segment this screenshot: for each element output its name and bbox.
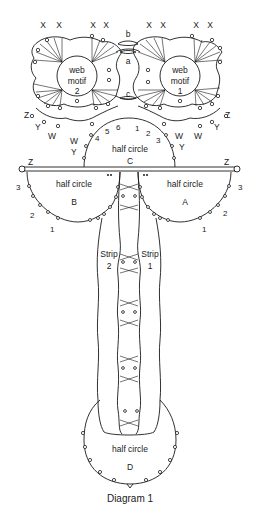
lace-pattern-diagram: X X X X X X X X b a c web motif 2 web mo…	[0, 0, 259, 515]
hc-c-num: 3	[156, 136, 161, 145]
w-inner-label-left: W	[70, 136, 78, 146]
hc-c-num: 2	[146, 129, 151, 138]
hc-a-num: 1	[202, 225, 207, 234]
hc-a-num: 3	[238, 183, 243, 192]
strip-1-number: 1	[148, 261, 153, 271]
join-b-label: b	[126, 29, 131, 39]
hc-b-letter: B	[71, 197, 77, 207]
y-label-left: Y	[35, 122, 41, 132]
half-circle-a: half circle A 3 2 1	[138, 172, 243, 234]
z-bar-right: Z	[224, 157, 229, 167]
x-label: X	[193, 20, 199, 30]
hc-c-num: 4	[95, 134, 100, 143]
hc-b-title: half circle	[56, 179, 92, 189]
w-label-left: W	[48, 131, 56, 141]
hc-c-num: 6	[116, 123, 121, 132]
half-circle-b: half circle B 3 2 1	[16, 172, 120, 234]
x-label: X	[160, 20, 166, 30]
hc-d-letter: D	[127, 462, 133, 472]
hc-b-num: 3	[16, 183, 21, 192]
x-label: X	[146, 20, 152, 30]
x-label: X	[103, 20, 109, 30]
w-label-right: W	[194, 131, 202, 141]
join-a-label: a	[126, 56, 131, 66]
hc-a-num: 2	[223, 209, 228, 218]
strip-2-number: 2	[107, 261, 112, 271]
hc-b-num: 1	[50, 225, 55, 234]
w-inner-label-right: W	[175, 131, 183, 141]
join-c-label: c	[126, 89, 131, 99]
y-label-right: Y	[214, 122, 220, 132]
half-circle-d: half circle D	[81, 400, 178, 488]
strip-2-title: Strip	[100, 249, 118, 259]
diagram-caption: Diagram 1	[107, 493, 154, 504]
z-label-left: Z	[24, 110, 29, 120]
x-label: X	[56, 20, 62, 30]
x-label: X	[207, 20, 213, 30]
hc-c-num: 1	[135, 124, 140, 133]
y-inner-label-left: Y	[71, 147, 77, 157]
hc-c-title: half circle	[112, 144, 148, 154]
web-motif-2-line3: 2	[75, 86, 80, 96]
z-bar-left: Z	[28, 157, 33, 167]
hc-c-num: 5	[105, 127, 110, 136]
web-motif-1-line3: 1	[178, 86, 183, 96]
strips: Strip 2 Strip 1	[97, 172, 161, 434]
hc-c-letter: C	[127, 156, 133, 166]
x-label: X	[90, 20, 96, 30]
strip-1-title: Strip	[141, 249, 159, 259]
hc-a-title: half circle	[167, 179, 203, 189]
web-motif-1-line1: web	[171, 65, 188, 75]
y-inner-label-right: Y	[179, 142, 185, 152]
x-label: X	[40, 20, 46, 30]
web-motif-2-line1: web	[68, 65, 85, 75]
hc-a-letter: A	[182, 197, 188, 207]
hc-b-num: 2	[30, 211, 35, 220]
web-motif-1-line2: motif	[171, 76, 190, 86]
web-motif-2-line2: motif	[68, 76, 87, 86]
half-circle-c: 4 5 6 1 2 3 half circle C	[83, 118, 176, 168]
hc-d-title: half circle	[112, 444, 148, 454]
